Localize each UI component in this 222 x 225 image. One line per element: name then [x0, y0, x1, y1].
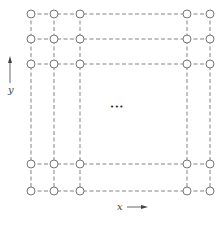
y-axis-label: y	[7, 84, 14, 95]
grid-node	[27, 10, 35, 18]
grid-node	[50, 60, 58, 68]
y-axis-indicator: y	[7, 56, 14, 95]
grid-node	[50, 10, 58, 18]
grid-node	[50, 35, 58, 43]
ellipsis: •••	[110, 103, 124, 111]
grid-node	[27, 35, 35, 43]
grid-node	[183, 187, 191, 195]
grid-node	[27, 60, 35, 68]
grid-diagram: ••• y x	[0, 0, 222, 225]
x-axis-arrow-head-icon	[141, 205, 148, 209]
grid-node	[206, 60, 214, 68]
grid-node	[27, 160, 35, 168]
grid-node	[206, 187, 214, 195]
grid-node	[206, 35, 214, 43]
grid-node	[76, 160, 84, 168]
grid-node	[206, 160, 214, 168]
grid-node	[50, 187, 58, 195]
grid-node	[76, 60, 84, 68]
grid-node	[76, 35, 84, 43]
grid-node	[76, 10, 84, 18]
grid-node	[183, 60, 191, 68]
grid-node	[27, 187, 35, 195]
x-axis-label: x	[117, 201, 123, 212]
grid-node	[76, 187, 84, 195]
grid-node	[206, 10, 214, 18]
grid-node	[183, 10, 191, 18]
y-axis-arrow-head-icon	[8, 56, 12, 63]
grid-node	[183, 35, 191, 43]
grid-node	[183, 160, 191, 168]
grid-node	[50, 160, 58, 168]
x-axis-indicator: x	[117, 201, 148, 212]
